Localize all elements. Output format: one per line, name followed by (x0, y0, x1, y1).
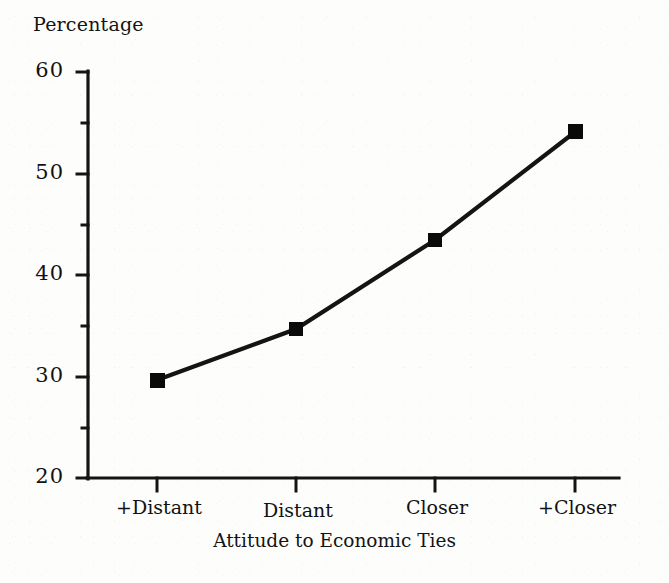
x-tick-label-plus-distant: +Distant (116, 496, 202, 518)
y-tick-label-30: 30 (18, 363, 64, 387)
y-tick-label-40: 40 (18, 261, 64, 285)
data-point-marker (428, 233, 442, 247)
data-point-marker (289, 322, 303, 336)
y-tick-label-50: 50 (18, 160, 64, 184)
x-axis-title: Attitude to Economic Ties (213, 530, 456, 551)
data-point-marker (150, 373, 165, 388)
data-series-line (157, 132, 575, 380)
x-tick-label-closer: Closer (406, 496, 468, 518)
x-axis-title-container: Attitude to Economic Ties (0, 530, 669, 551)
x-axis-ticks (157, 478, 575, 491)
chart-figure: Percentage (0, 0, 669, 583)
x-tick-label-plus-closer: +Closer (538, 496, 616, 518)
y-axis-major-ticks (77, 72, 88, 478)
y-tick-label-60: 60 (18, 58, 64, 82)
y-tick-label-20: 20 (18, 464, 64, 488)
data-point-markers (150, 124, 583, 388)
x-tick-label-distant: Distant (263, 499, 333, 521)
data-point-marker (568, 124, 583, 139)
